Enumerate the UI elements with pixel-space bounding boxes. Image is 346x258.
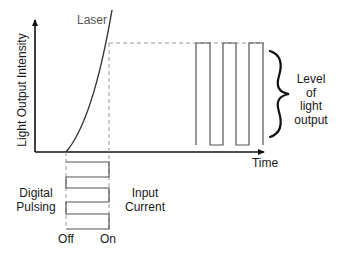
input-current-line-1: Input <box>132 186 159 200</box>
y-axis-label: Light Output Intensity <box>15 33 29 146</box>
output-label-line-4: output <box>294 113 328 127</box>
input-current-line-2: Current <box>125 200 166 214</box>
curve-label: Laser <box>77 13 107 27</box>
output-label-line-3: light <box>300 99 323 113</box>
digital-pulsing-line-1: Digital <box>19 186 52 200</box>
laser-curve <box>66 10 112 152</box>
level-brace <box>270 51 289 137</box>
x-axis-label: Time <box>252 156 279 170</box>
output-pulse-train <box>196 43 263 145</box>
on-label: On <box>100 232 116 246</box>
output-label-line-2: of <box>306 86 317 100</box>
off-label: Off <box>58 232 74 246</box>
input-pulse-train <box>66 162 109 229</box>
digital-pulsing-line-2: Pulsing <box>16 200 55 214</box>
output-label-line-1: Level <box>297 72 326 86</box>
laser-modulation-diagram: Laser Light Output Intensity Time Level … <box>0 0 346 258</box>
